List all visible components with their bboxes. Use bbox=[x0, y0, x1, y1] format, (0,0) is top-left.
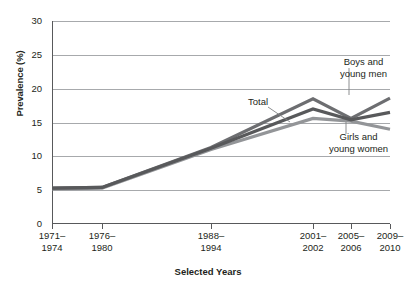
y-tick-15: 15 bbox=[22, 118, 42, 128]
annotation-total: Total bbox=[248, 96, 268, 108]
x-tickmark-2005-2006 bbox=[351, 224, 352, 229]
x-tick-label-1976-1980: 1976– 1980 bbox=[71, 230, 133, 253]
series-lines-svg bbox=[52, 21, 390, 224]
x-tickmark-1988-1994 bbox=[211, 224, 212, 229]
y-tick-30: 30 bbox=[22, 16, 42, 26]
annotation-girls-and-young-women: Girls and young women bbox=[329, 131, 388, 154]
y-tick-10: 10 bbox=[22, 151, 42, 161]
y-tick-20: 20 bbox=[22, 84, 42, 94]
y-tick-25: 25 bbox=[22, 50, 42, 60]
x-tick-label-1988-1994: 1988– 1994 bbox=[180, 230, 242, 253]
x-tickmark-1971-1974 bbox=[52, 224, 53, 229]
chart-container: Prevalence (%) 30 25 20 15 10 5 0 bbox=[0, 0, 416, 293]
y-tick-0: 0 bbox=[22, 219, 42, 229]
x-axis-title: Selected Years bbox=[0, 266, 416, 277]
y-tick-5: 5 bbox=[22, 185, 42, 195]
plot-area bbox=[52, 21, 390, 224]
x-tickmark-2009-2010 bbox=[390, 224, 391, 229]
x-tickmark-1976-1980 bbox=[102, 224, 103, 229]
x-axis-tick-labels: 1971– 1974 1976– 1980 1988– 1994 2001– 2… bbox=[52, 230, 390, 260]
x-tick-label-2009-2010: 2009– 2010 bbox=[359, 230, 416, 253]
x-tickmark-2001-2002 bbox=[313, 224, 314, 229]
annotation-boys-and-young-men: Boys and young men bbox=[340, 56, 387, 79]
